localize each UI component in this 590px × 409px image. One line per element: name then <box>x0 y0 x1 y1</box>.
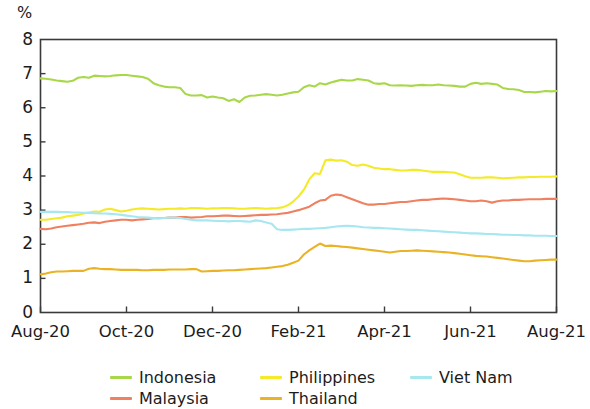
legend-swatch-icon <box>110 376 132 379</box>
legend-swatch-icon <box>410 376 432 379</box>
chart-legend: IndonesiaPhilippinesViet NamMalaysiaThai… <box>110 367 510 409</box>
y-axis-tick-label: 8 <box>5 29 33 49</box>
x-axis-tick-label: Apr-21 <box>344 322 426 341</box>
legend-item-viet-nam[interactable]: Viet Nam <box>410 370 540 386</box>
series-line-viet-nam <box>41 212 557 236</box>
x-axis-tick-label: Aug-21 <box>516 322 590 341</box>
y-axis-tick-label: 0 <box>5 302 33 322</box>
y-axis-tick-label: 6 <box>5 97 33 117</box>
legend-swatch-icon <box>260 397 282 400</box>
plot-frame <box>41 40 557 313</box>
legend-swatch-icon <box>260 376 282 379</box>
series-line-malaysia <box>41 194 557 229</box>
legend-label: Malaysia <box>139 391 209 407</box>
x-axis-tick-label: Aug-20 <box>0 322 82 341</box>
x-axis-tick-label: Dec-20 <box>172 322 254 341</box>
y-axis-tick-label: 3 <box>5 199 33 219</box>
legend-item-malaysia[interactable]: Malaysia <box>110 391 260 407</box>
series-line-thailand <box>41 244 557 275</box>
y-axis-tick-label: 7 <box>5 63 33 83</box>
legend-label: Philippines <box>289 370 375 386</box>
legend-item-thailand[interactable]: Thailand <box>260 391 410 407</box>
legend-item-philippines[interactable]: Philippines <box>260 370 410 386</box>
y-axis-tick-label: 2 <box>5 233 33 253</box>
x-axis-tick-label: Feb-21 <box>258 322 340 341</box>
y-axis-tick-label: 4 <box>5 165 33 185</box>
legend-label: Viet Nam <box>439 370 513 386</box>
x-axis-tick-label: Jun-21 <box>430 322 512 341</box>
y-axis-tick-label: 1 <box>5 267 33 287</box>
x-axis-tick-label: Oct-20 <box>86 322 168 341</box>
legend-label: Thailand <box>289 391 358 407</box>
series-line-indonesia <box>41 75 557 102</box>
legend-swatch-icon <box>110 397 132 400</box>
legend-label: Indonesia <box>139 370 216 386</box>
legend-item-indonesia[interactable]: Indonesia <box>110 370 260 386</box>
y-axis-tick-label: 5 <box>5 131 33 151</box>
